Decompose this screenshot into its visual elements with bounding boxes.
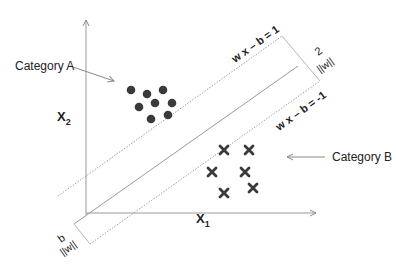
category-a-points [127, 86, 177, 124]
upper-margin-equation: w x – b = 1 [228, 23, 281, 65]
offset-bracket [74, 224, 90, 244]
category-b-label: Category B [332, 150, 392, 164]
margin-width-numerator: 2 [312, 44, 324, 57]
hyperplane-line [74, 66, 298, 224]
category-a-arrow [70, 66, 114, 81]
category-a-label: Category A [15, 59, 74, 73]
margin-width-bracket [282, 36, 320, 81]
lower-margin-equation: w x – b = -1 [272, 89, 328, 134]
svm-diagram: Category A Category B X2 X1 w x – b = 1 … [0, 0, 396, 270]
y-axis-label: X2 [57, 109, 71, 127]
margin-width-denominator: ||w|| [315, 55, 336, 74]
category-b-points [208, 146, 257, 197]
x-axis-label: X1 [196, 211, 210, 229]
